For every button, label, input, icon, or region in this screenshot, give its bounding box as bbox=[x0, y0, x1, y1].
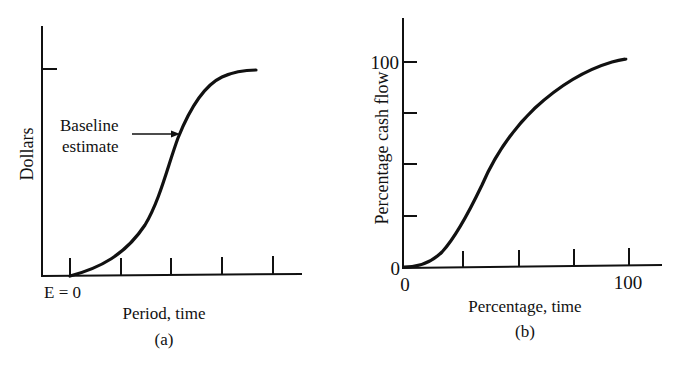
chart-b-x-tick-0: 0 bbox=[400, 274, 410, 295]
chart-a-y-label: Dollars bbox=[17, 128, 37, 181]
chart-b: 100 0 0 100 Percentage cash flow Percent… bbox=[371, 18, 663, 341]
chart-b-y-tick-100: 100 bbox=[371, 52, 400, 73]
chart-a-x-label: Period, time bbox=[122, 304, 205, 323]
chart-b-x-tick-100: 100 bbox=[614, 272, 643, 293]
chart-b-y-tick-0: 0 bbox=[391, 258, 401, 279]
chart-a-caption: (a) bbox=[155, 330, 174, 349]
chart-a-annotation-line2: estimate bbox=[62, 137, 119, 156]
chart-a-origin-label: E = 0 bbox=[44, 283, 81, 302]
chart-b-cash-flow-curve bbox=[404, 59, 626, 267]
chart-b-y-label: Percentage cash flow bbox=[372, 72, 392, 225]
chart-b-x-axis bbox=[403, 265, 662, 268]
figure: Baseline estimate Dollars E = 0 Period, … bbox=[0, 0, 681, 372]
chart-a: Baseline estimate Dollars E = 0 Period, … bbox=[17, 26, 302, 349]
chart-b-y-ticks bbox=[403, 62, 417, 216]
chart-b-x-label: Percentage, time bbox=[468, 297, 581, 316]
chart-b-caption: (b) bbox=[515, 322, 535, 341]
chart-a-baseline-curve bbox=[70, 70, 256, 276]
chart-a-annotation-line1: Baseline bbox=[60, 116, 119, 135]
